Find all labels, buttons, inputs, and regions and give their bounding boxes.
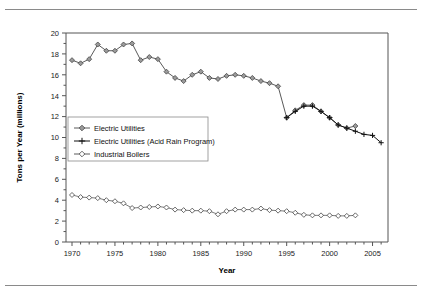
data-point-marker-diamond-open	[173, 207, 178, 212]
data-point-marker-diamond-filled	[250, 75, 255, 80]
y-tick-label: 14	[51, 92, 59, 101]
x-tick-label: 1990	[235, 249, 252, 258]
chart-legend: Electric UtilitiesElectric Utilities (Ac…	[68, 117, 215, 161]
data-point-marker-diamond-open	[130, 206, 135, 211]
data-point-marker-diamond-open	[319, 213, 324, 218]
data-point-marker-diamond-open	[276, 208, 281, 213]
y-tick-label: 4	[55, 196, 59, 205]
series-line	[72, 43, 355, 128]
y-tick-label: 16	[51, 71, 59, 80]
data-point-marker-diamond-open	[147, 204, 152, 209]
x-tick-label: 1970	[64, 249, 81, 258]
figure-container: Electric UtilitiesElectric Utilities (Ac…	[0, 0, 422, 294]
data-point-marker-diamond-open	[344, 213, 349, 218]
series-line	[287, 106, 381, 143]
data-point-marker-diamond-open	[215, 212, 220, 217]
series-electric-utilities-acid-rain-program	[284, 104, 384, 146]
data-point-marker-diamond-filled	[241, 73, 246, 78]
data-point-marker-diamond-filled	[87, 57, 92, 62]
data-point-marker-diamond-open	[95, 196, 100, 201]
data-point-marker-diamond-open	[301, 212, 306, 217]
data-point-marker-diamond-filled	[224, 73, 229, 78]
data-point-marker-diamond-filled	[267, 81, 272, 86]
data-point-marker-diamond-filled	[258, 79, 263, 84]
data-point-marker-diamond-open	[181, 208, 186, 213]
x-tick-label: 1995	[278, 249, 295, 258]
data-point-marker-diamond-filled	[233, 72, 238, 77]
data-point-marker-diamond-open	[112, 199, 117, 204]
data-point-marker-diamond-open	[190, 208, 195, 213]
legend-label: Electric Utilities	[94, 124, 145, 133]
data-point-marker-diamond-open	[353, 213, 358, 218]
x-tick-label: 1985	[192, 249, 209, 258]
y-tick-label: 8	[55, 154, 59, 163]
data-point-marker-plus	[344, 125, 349, 130]
y-tick-label: 12	[51, 112, 59, 121]
data-point-marker-diamond-open	[224, 209, 229, 214]
data-point-marker-diamond-open	[241, 207, 246, 212]
data-point-marker-diamond-open	[121, 201, 126, 206]
data-point-marker-diamond-open	[164, 205, 169, 210]
data-point-marker-diamond-filled	[147, 55, 152, 60]
x-tick-label: 1980	[150, 249, 167, 258]
data-point-marker-diamond-open	[327, 213, 332, 218]
data-point-marker-diamond-open	[267, 208, 272, 213]
data-point-marker-diamond-filled	[70, 58, 75, 63]
data-point-marker-plus	[353, 129, 358, 134]
line-chart: Electric UtilitiesElectric Utilities (Ac…	[0, 0, 422, 294]
data-point-marker-diamond-filled	[215, 76, 220, 81]
data-point-marker-diamond-open	[70, 192, 75, 197]
data-point-marker-diamond-open	[258, 206, 263, 211]
data-point-marker-diamond-open	[207, 209, 212, 214]
x-tick-label: 2000	[321, 249, 338, 258]
data-point-marker-diamond-open	[155, 204, 160, 209]
data-point-marker-diamond-open	[250, 207, 255, 212]
data-point-marker-diamond-open	[78, 195, 83, 200]
y-axis-title: Tons per Year (millions)	[15, 92, 24, 182]
data-point-marker-diamond-open	[138, 205, 143, 210]
series-industrial-boilers	[70, 192, 358, 218]
y-tick-label: 20	[51, 29, 59, 38]
legend-item[interactable]: Electric Utilities (Acid Rain Program)	[74, 137, 215, 146]
data-point-marker-diamond-open	[233, 207, 238, 212]
data-point-marker-diamond-filled	[78, 61, 83, 66]
y-tick-label: 18	[51, 50, 59, 59]
data-point-marker-diamond-filled	[276, 84, 281, 89]
y-tick-label: 6	[55, 175, 59, 184]
x-axis-title: Year	[219, 266, 236, 275]
data-point-marker-diamond-open	[310, 213, 315, 218]
data-point-marker-diamond-open	[87, 195, 92, 200]
data-point-marker-diamond-filled	[138, 58, 143, 63]
data-point-marker-diamond-open	[336, 213, 341, 218]
data-point-marker-diamond-open	[284, 209, 289, 214]
data-point-marker-diamond-open	[293, 210, 298, 215]
x-tick-label: 1975	[107, 249, 124, 258]
data-point-marker-diamond-filled	[130, 41, 135, 46]
data-point-marker-diamond-open	[104, 198, 109, 203]
legend-label: Industrial Boilers	[94, 150, 150, 159]
y-tick-label: 0	[55, 238, 59, 247]
data-point-marker-diamond-open	[198, 208, 203, 213]
data-point-marker-diamond-filled	[353, 124, 358, 129]
x-tick-label: 2005	[364, 249, 381, 258]
data-point-marker-plus	[361, 132, 366, 137]
legend-label: Electric Utilities (Acid Rain Program)	[94, 137, 215, 146]
y-tick-label: 2	[55, 217, 59, 226]
y-tick-label: 10	[51, 133, 59, 142]
